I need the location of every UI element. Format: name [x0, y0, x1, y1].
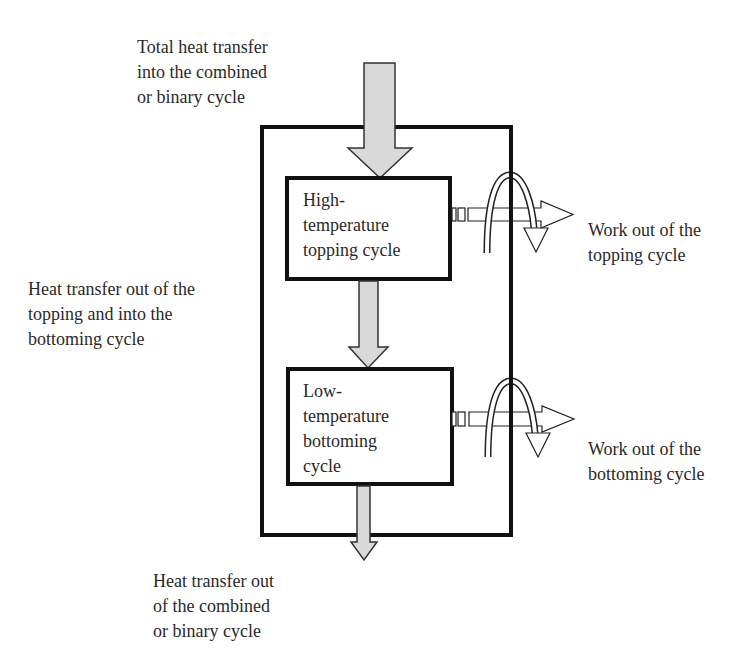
work-topping-label: Work out of the topping cycle — [588, 218, 701, 268]
topping-cycle-label: High- temperature topping cycle — [303, 188, 400, 263]
heat-out-arrow-icon — [351, 486, 377, 560]
heat-in-arrow-icon — [348, 63, 412, 178]
heat-in-label: Total heat transfer into the combined or… — [137, 35, 268, 110]
work-bottoming-label: Work out of the bottoming cycle — [588, 437, 704, 487]
bottoming-cycle-label: Low- temperature bottoming cycle — [303, 379, 389, 479]
heat-out-label: Heat transfer out of the combined or bin… — [153, 569, 274, 644]
heat-between-label: Heat transfer out of the topping and int… — [28, 277, 195, 352]
combined-cycle-diagram: Total heat transfer into the combined or… — [0, 0, 747, 655]
heat-between-arrow-icon — [349, 281, 388, 368]
